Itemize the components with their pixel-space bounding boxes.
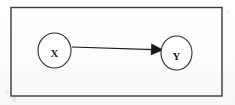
node-y-label: Y (173, 50, 181, 62)
causal-diagram-canvas: X Y (0, 0, 235, 105)
edge-x-to-y (72, 44, 163, 55)
figure-root: X Y (0, 0, 235, 105)
arrow-shaft (72, 47, 153, 50)
node-x[interactable]: X (38, 33, 71, 68)
node-x-label: X (51, 47, 59, 59)
node-y[interactable]: Y (161, 36, 192, 70)
